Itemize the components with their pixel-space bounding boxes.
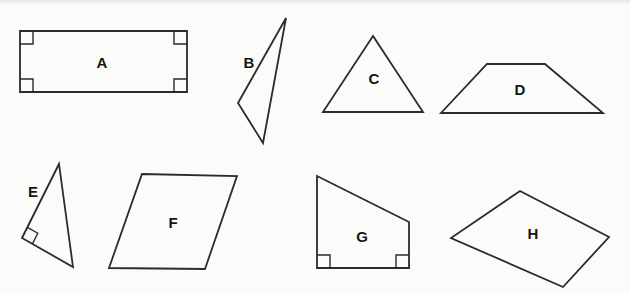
worksheet-page: ABCDEFGH	[0, 0, 630, 294]
shape-e-outline	[22, 164, 73, 267]
shape-b-outline	[238, 18, 286, 143]
shape-c-label: C	[369, 70, 380, 87]
shape-g-right-angle-mark	[317, 255, 330, 268]
shape-g-label: G	[356, 228, 368, 245]
shape-h-label: H	[528, 225, 539, 242]
shape-a-right-angle-mark	[20, 31, 33, 44]
shape-b-label: B	[244, 54, 255, 71]
shape-a-label: A	[97, 54, 108, 71]
shape-a-right-angle-mark	[20, 79, 33, 92]
shape-a-right-angle-mark	[174, 79, 187, 92]
shape-a-right-angle-mark	[174, 31, 187, 44]
shape-g-right-angle-mark	[396, 255, 409, 268]
shapes-diagram: ABCDEFGH	[0, 0, 630, 294]
shape-e-label: E	[28, 183, 38, 200]
shape-g-outline	[317, 176, 409, 268]
shape-f-label: F	[168, 214, 177, 231]
shape-d-label: D	[515, 81, 526, 98]
